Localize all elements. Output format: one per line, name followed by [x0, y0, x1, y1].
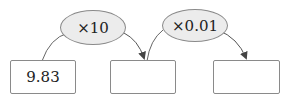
start-value: 9.83	[26, 68, 59, 86]
operation-label-1: ×10	[77, 19, 109, 37]
operation-oval-2: ×0.01	[162, 9, 228, 42]
answer-box-1[interactable]	[110, 60, 176, 94]
operation-oval-1: ×10	[60, 10, 126, 45]
operation-label-2: ×0.01	[172, 17, 218, 35]
arrow-1b	[124, 33, 144, 58]
answer-box-2[interactable]	[213, 60, 280, 94]
arrow-1	[42, 33, 68, 61]
arrow-2	[147, 30, 163, 61]
input-box-1: 9.83	[10, 60, 76, 94]
